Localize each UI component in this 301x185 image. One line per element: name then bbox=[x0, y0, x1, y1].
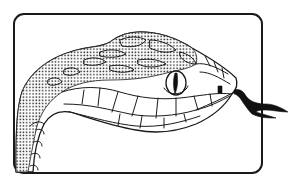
illustration-canvas bbox=[0, 0, 301, 185]
nostril-icon bbox=[218, 86, 222, 93]
snake-illustration bbox=[0, 0, 301, 185]
